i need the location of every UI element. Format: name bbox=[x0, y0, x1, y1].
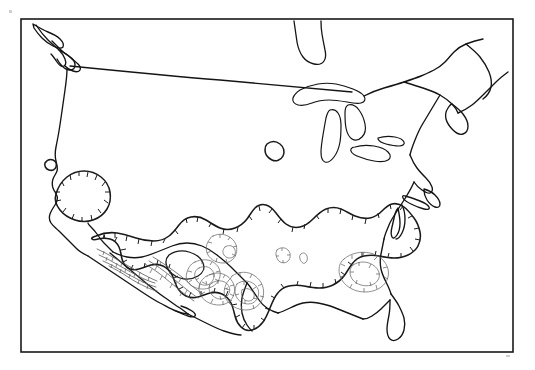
st-lawrence-coast bbox=[364, 39, 483, 96]
lake-huron bbox=[345, 105, 365, 140]
florida-gulf-coast bbox=[363, 300, 390, 319]
lake-of-the-woods-notch bbox=[294, 21, 326, 64]
maine-coast bbox=[410, 95, 440, 155]
northern-plains-small-ellipse bbox=[265, 142, 284, 161]
gulf-coastline bbox=[278, 302, 363, 319]
nova-scotia-coast bbox=[446, 104, 468, 134]
interior-small-contour-north bbox=[223, 246, 235, 258]
lake-erie bbox=[351, 145, 391, 161]
lake-superior bbox=[293, 83, 365, 105]
figure-root bbox=[0, 0, 535, 370]
scan-speckles bbox=[9, 10, 510, 357]
chesapeake-bay bbox=[391, 208, 400, 238]
mexico-mainland-coast bbox=[188, 314, 241, 335]
interior-small-contour-east bbox=[276, 248, 290, 263]
lake-michigan bbox=[321, 110, 341, 163]
interior-tiny-ellipse bbox=[300, 253, 308, 263]
california-coast-small-ellipse bbox=[45, 160, 57, 171]
canada-us-border-49th bbox=[70, 66, 352, 92]
newfoundland-approach-coast bbox=[458, 72, 508, 113]
contour-map-figure bbox=[0, 0, 535, 370]
lake-ontario bbox=[378, 136, 404, 146]
new-england-coast bbox=[410, 155, 432, 193]
southeast-atlantic-coast bbox=[380, 239, 391, 294]
california-nevada-closed-contour bbox=[55, 171, 110, 222]
southern-us-outer-contour bbox=[92, 204, 421, 331]
gaspe-peninsula-coast bbox=[404, 82, 458, 113]
puget-sound-coast bbox=[36, 25, 66, 66]
rio-grande-mouth bbox=[241, 283, 252, 331]
